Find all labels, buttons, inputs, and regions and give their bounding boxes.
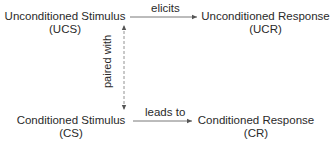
arrows-layer xyxy=(0,0,331,151)
